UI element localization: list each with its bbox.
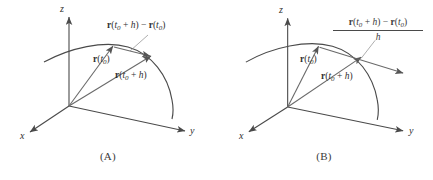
panel-b-caption: (B) xyxy=(216,150,432,162)
leader-line-difference xyxy=(130,35,148,51)
x-axis-label: x xyxy=(239,131,243,141)
x-axis-label: x xyxy=(20,131,24,141)
difference-quotient-denominator: h xyxy=(333,31,423,42)
vector-difference-label: r(t0 + h) − r(t0) xyxy=(107,21,165,32)
difference-quotient-label: r(t0 + h) − r(t0) h xyxy=(333,17,423,42)
vector-difference-quotient xyxy=(320,47,404,73)
vector-r-t0-plus-h-label: r(t0 + h) xyxy=(115,71,147,82)
y-axis xyxy=(288,107,403,131)
vector-r-t0-plus-h-label: r(t0 + h) xyxy=(321,72,353,83)
z-axis-label: z xyxy=(60,4,64,14)
y-axis-label: y xyxy=(190,126,194,136)
panel-a: z y x r(t0) r(t0 + h) r(t0 + h) − r(t0) … xyxy=(0,0,216,180)
panel-b: z y x r(t0) r(t0 + h) r(t0 + h) − r(t0) … xyxy=(216,0,432,180)
y-axis xyxy=(69,106,185,131)
figure-container: z y x r(t0) r(t0 + h) r(t0 + h) − r(t0) … xyxy=(0,0,433,180)
difference-quotient-numerator: r(t0 + h) − r(t0) xyxy=(333,17,423,31)
y-axis-label: y xyxy=(409,126,413,136)
vector-r-t0-label: r(t0) xyxy=(300,55,317,66)
x-axis xyxy=(249,107,288,132)
leader-line-difference-quotient xyxy=(361,40,375,58)
z-axis-label: z xyxy=(279,5,283,15)
panel-a-caption: (A) xyxy=(0,150,216,162)
vector-r-t0-label: r(t0) xyxy=(93,55,110,66)
x-axis xyxy=(30,106,69,132)
